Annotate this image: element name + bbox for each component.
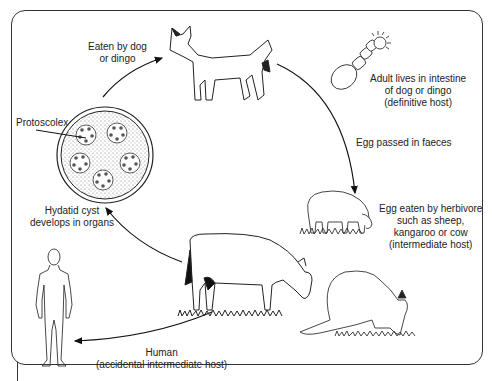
label-egg-passed: Egg passed in faeces <box>356 137 452 149</box>
sheep-icon <box>300 191 372 234</box>
label-adult: Adult lives in intestine of dog or dingo… <box>370 73 466 109</box>
label-human: Human (accidental intermediate host) <box>96 347 227 371</box>
label-protoscolex: Protoscolex <box>16 117 68 129</box>
life-cycle-art <box>0 0 492 381</box>
label-egg-eaten: Egg eaten by herbivore such as sheep, ka… <box>379 203 482 251</box>
hydatid-cyst-icon <box>57 107 153 203</box>
human-icon <box>36 249 72 366</box>
label-hydatid-cyst: Hydatid cyst develops in organs <box>30 205 114 229</box>
cow-icon <box>178 234 312 316</box>
dingo-icon <box>170 26 272 100</box>
kangaroo-icon <box>300 271 415 336</box>
arrow-to-human <box>75 312 212 341</box>
arrow-cow-to-cyst <box>106 208 182 262</box>
label-eaten-by-dog: Eaten by dog or dingo <box>88 41 147 65</box>
